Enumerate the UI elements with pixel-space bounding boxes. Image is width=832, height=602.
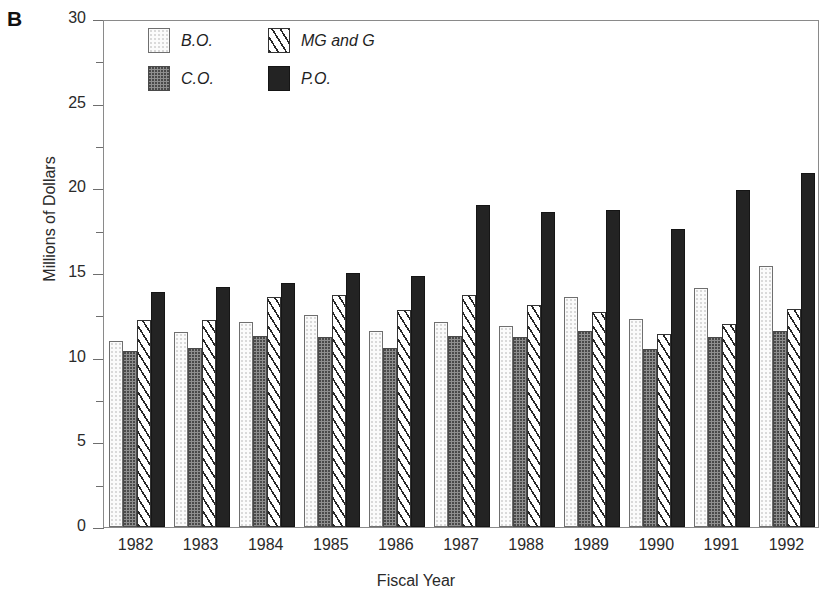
legend-swatch-c-o-icon	[148, 66, 170, 91]
bar-b-o-1990	[629, 319, 643, 527]
x-tick-label: 1991	[686, 536, 756, 554]
bar-mg-and-g-1989	[592, 312, 606, 527]
y-axis-title: Millions of Dollars	[41, 99, 59, 339]
bar-p-o-1985	[346, 273, 360, 527]
legend-swatch-b-o-icon	[148, 28, 170, 53]
bar-b-o-1991	[694, 288, 708, 527]
bar-p-o-1989	[606, 210, 620, 527]
y-tick-label: 20	[28, 178, 86, 196]
bar-mg-and-g-1982	[137, 320, 151, 527]
bar-b-o-1983	[174, 332, 188, 527]
bar-c-o-1992	[773, 331, 787, 527]
bar-c-o-1983	[188, 348, 202, 527]
legend-swatch-mg-and-g-icon	[268, 28, 290, 53]
bar-mg-and-g-1988	[527, 305, 541, 527]
y-tick-label: 5	[28, 432, 86, 450]
x-tick-label: 1985	[296, 536, 366, 554]
bar-p-o-1986	[411, 276, 425, 527]
bar-b-o-1982	[109, 341, 123, 527]
bar-mg-and-g-1987	[462, 295, 476, 527]
legend-item: C.O.	[148, 66, 214, 91]
bar-p-o-1983	[216, 287, 230, 527]
bar-c-o-1982	[123, 351, 137, 527]
legend-label: C.O.	[181, 70, 214, 88]
bar-c-o-1986	[383, 348, 397, 527]
bar-c-o-1987	[448, 336, 462, 527]
legend-label: P.O.	[301, 70, 331, 88]
bar-c-o-1991	[708, 337, 722, 527]
y-tick-label: 30	[28, 9, 86, 27]
bar-b-o-1992	[759, 266, 773, 527]
plot-area	[103, 20, 819, 528]
bar-c-o-1985	[318, 337, 332, 527]
bar-c-o-1989	[578, 331, 592, 527]
bar-b-o-1988	[499, 326, 513, 528]
bar-p-o-1988	[541, 212, 555, 527]
y-tick-label: 10	[28, 348, 86, 366]
bar-mg-and-g-1986	[397, 310, 411, 527]
x-tick-label: 1987	[426, 536, 496, 554]
x-tick-label: 1988	[491, 536, 561, 554]
bar-mg-and-g-1992	[787, 309, 801, 527]
x-tick-label: 1986	[361, 536, 431, 554]
bar-b-o-1984	[239, 322, 253, 527]
x-tick-label: 1989	[556, 536, 626, 554]
x-tick-label: 1984	[231, 536, 301, 554]
bar-p-o-1990	[671, 229, 685, 527]
bar-b-o-1986	[369, 331, 383, 527]
y-tick-label: 25	[28, 94, 86, 112]
x-axis-title: Fiscal Year	[0, 572, 832, 590]
bar-c-o-1984	[253, 336, 267, 527]
x-tick-label: 1992	[751, 536, 821, 554]
bar-p-o-1987	[476, 205, 490, 527]
bar-p-o-1992	[801, 173, 815, 527]
chart-figure: B Millions of Dollars Fiscal Year 051015…	[0, 0, 832, 602]
x-tick-label: 1982	[101, 536, 171, 554]
x-tick-label: 1983	[166, 536, 236, 554]
bar-mg-and-g-1983	[202, 320, 216, 527]
bar-p-o-1982	[151, 292, 165, 527]
bar-mg-and-g-1984	[267, 297, 281, 527]
legend-label: B.O.	[181, 32, 213, 50]
bar-c-o-1988	[513, 337, 527, 527]
bar-c-o-1990	[643, 349, 657, 527]
legend-item: P.O.	[268, 66, 331, 91]
bar-b-o-1985	[304, 315, 318, 527]
bar-p-o-1991	[736, 190, 750, 527]
bar-mg-and-g-1990	[657, 334, 671, 527]
y-tick-major	[93, 528, 104, 529]
x-tick-label: 1990	[621, 536, 691, 554]
legend-swatch-p-o-icon	[268, 66, 290, 91]
bar-p-o-1984	[281, 283, 295, 527]
panel-label: B	[7, 7, 22, 31]
legend-item: B.O.	[148, 28, 213, 53]
legend-label: MG and G	[301, 32, 375, 50]
bar-mg-and-g-1985	[332, 295, 346, 527]
bar-b-o-1989	[564, 297, 578, 527]
legend-item: MG and G	[268, 28, 375, 53]
bar-mg-and-g-1991	[722, 324, 736, 527]
y-tick-label: 15	[28, 263, 86, 281]
bar-b-o-1987	[434, 322, 448, 527]
y-tick-label: 0	[28, 517, 86, 535]
